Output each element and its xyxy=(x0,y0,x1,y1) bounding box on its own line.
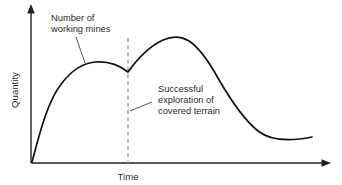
figure-container: Number of working mines Successful explo… xyxy=(0,0,342,185)
y-axis-label: Quantity xyxy=(9,72,20,108)
annotation-exploration-line-2: exploration of xyxy=(158,95,214,105)
annotation-exploration-line-3: covered terrain xyxy=(158,106,220,116)
y-axis-arrowhead xyxy=(27,4,35,14)
annotation-working-mines-line-2: working mines xyxy=(50,24,111,34)
annotation-exploration-line-1: Successful xyxy=(158,84,203,94)
x-axis-label: Time xyxy=(118,171,139,182)
graph-canvas: Number of working mines Successful explo… xyxy=(0,0,342,185)
x-axis-arrowhead xyxy=(322,159,332,167)
annotation-leader-line-working-mines xyxy=(76,37,85,63)
annotation-leader-line-exploration xyxy=(130,102,152,111)
annotation-working-mines-line-1: Number of xyxy=(51,13,95,23)
